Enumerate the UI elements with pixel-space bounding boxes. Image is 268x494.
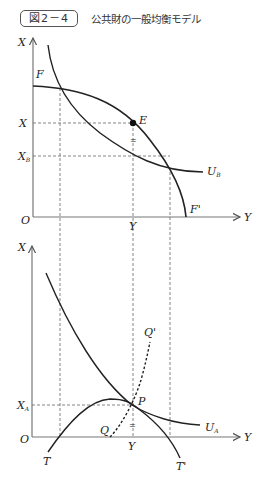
label-f-prime: F' xyxy=(189,203,201,216)
bottom-tick-y-label: Y xyxy=(128,440,137,453)
bottom-chart: X Y O XA P UA T T' Q Q' Y = xyxy=(16,241,253,473)
label-q: Q xyxy=(100,424,109,437)
bottom-origin-label: O xyxy=(20,433,29,446)
label-t: T xyxy=(43,455,52,468)
indifference-curve-ua xyxy=(46,273,200,425)
top-x-axis-label: Y xyxy=(244,211,253,224)
indifference-curve-ub xyxy=(48,45,203,172)
label-ub: UB xyxy=(207,165,221,178)
ppf-curve-ff xyxy=(33,86,186,217)
bottom-y-axis-label: X xyxy=(17,241,27,254)
label-f: F xyxy=(35,68,44,81)
label-xa-level: XA xyxy=(16,399,30,412)
label-q-prime: Q' xyxy=(144,326,156,339)
top-chart: X Y O F F' E X XB UB Y = xyxy=(17,36,253,437)
top-origin-label: O xyxy=(21,214,30,227)
equilibrium-point-e xyxy=(130,120,136,126)
general-equilibrium-diagram: X Y O F F' E X XB UB Y = X Y O XA P UA T… xyxy=(0,0,268,494)
top-equal-mark: = xyxy=(130,136,137,145)
label-ua: UA xyxy=(205,421,219,434)
label-xb-level: XB xyxy=(17,150,31,163)
label-e: E xyxy=(138,114,147,127)
label-x-level: X xyxy=(18,117,28,130)
curve-tt xyxy=(48,399,180,458)
bottom-x-axis-label: Y xyxy=(244,431,253,444)
label-t-prime: T' xyxy=(176,460,186,473)
top-y-axis-label: X xyxy=(17,36,27,49)
bottom-equal-mark: = xyxy=(129,421,136,430)
label-p: P xyxy=(137,395,146,408)
top-tick-y-label: Y xyxy=(129,220,138,233)
